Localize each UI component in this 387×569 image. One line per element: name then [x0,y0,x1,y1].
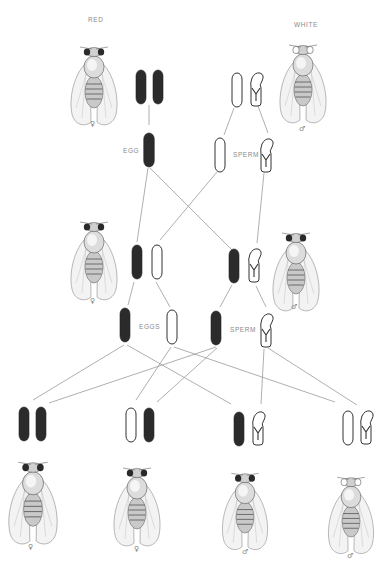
f1-male-fly [273,233,319,311]
label-red: RED [88,16,104,23]
f1-egg-x-red [120,308,130,342]
f2-3-fly [222,473,267,549]
f2-1-chromosomes [19,407,46,441]
p-male-fly [280,45,326,123]
f2-1-fly [9,462,57,544]
f1-sperm-y [261,314,273,347]
label-eggs: EGGS [139,323,160,330]
f1-male-sex-symbol: ♂ [291,303,297,311]
sperm-y [261,139,273,172]
egg-x-red [144,133,155,167]
f1-sperm-x-red [211,311,221,345]
f2-2-sex-symbol: ♀ [134,545,139,553]
f2-2-fly [114,468,160,546]
diagram-graphics [0,0,387,569]
inheritance-diagram: RED WHITE EGG SPERM EGGS SPERM ♀ ♂ ♀ ♂ ♀… [0,0,387,569]
p-female-chromosomes [136,70,163,104]
p-male-chromosomes [232,73,263,107]
f1-male-chromosomes [229,249,261,283]
f2-4-fly [328,477,373,553]
f2-3-chromosomes [234,412,265,446]
p-female-sex-symbol: ♀ [90,120,95,128]
f2-2-chromosomes [126,408,154,442]
f1-female-fly [71,222,117,300]
f2-4-chromosomes [343,411,373,445]
f2-4-sex-symbol: ♂ [347,552,353,560]
label-white: WHITE [294,21,318,28]
p-male-sex-symbol: ♂ [299,125,305,133]
f1-female-chromosomes [132,245,162,279]
f2-1-sex-symbol: ♀ [28,543,33,551]
label-egg: EGG [123,147,139,154]
label-sperm-p: SPERM [233,151,259,158]
f1-female-sex-symbol: ♀ [90,297,95,305]
sperm-x-white [215,138,225,172]
label-sperm-f1: SPERM [230,326,256,333]
p-female-fly [71,47,117,125]
f2-3-sex-symbol: ♂ [242,548,248,556]
f1-egg-x-white [167,310,177,344]
